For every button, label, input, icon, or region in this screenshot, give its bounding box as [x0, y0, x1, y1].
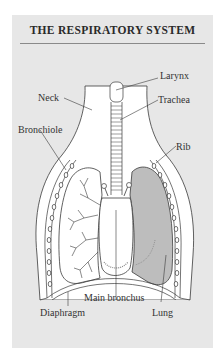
label-rib: Rib — [176, 141, 190, 152]
label-diaphragm: Diaphragm — [40, 307, 85, 318]
label-larynx: Larynx — [160, 70, 189, 81]
label-main-bronchus: Main bronchus — [84, 292, 144, 303]
label-lung: Lung — [152, 307, 173, 318]
label-bronchiole: Bronchiole — [18, 124, 62, 135]
label-trachea: Trachea — [158, 94, 190, 105]
label-neck: Neck — [38, 92, 59, 103]
